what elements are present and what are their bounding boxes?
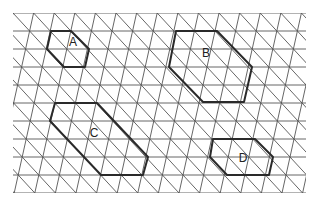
label-a: A — [69, 35, 77, 49]
label-d: D — [239, 151, 248, 165]
hexagon-b — [169, 31, 252, 102]
grid-lines — [0, 13, 315, 193]
label-c: C — [90, 126, 99, 140]
triangular-grid-diagram: ABCD — [0, 0, 315, 205]
grid-slant-line — [0, 13, 13, 193]
grid-diagonal-line — [0, 13, 14, 193]
label-b: B — [202, 46, 210, 60]
